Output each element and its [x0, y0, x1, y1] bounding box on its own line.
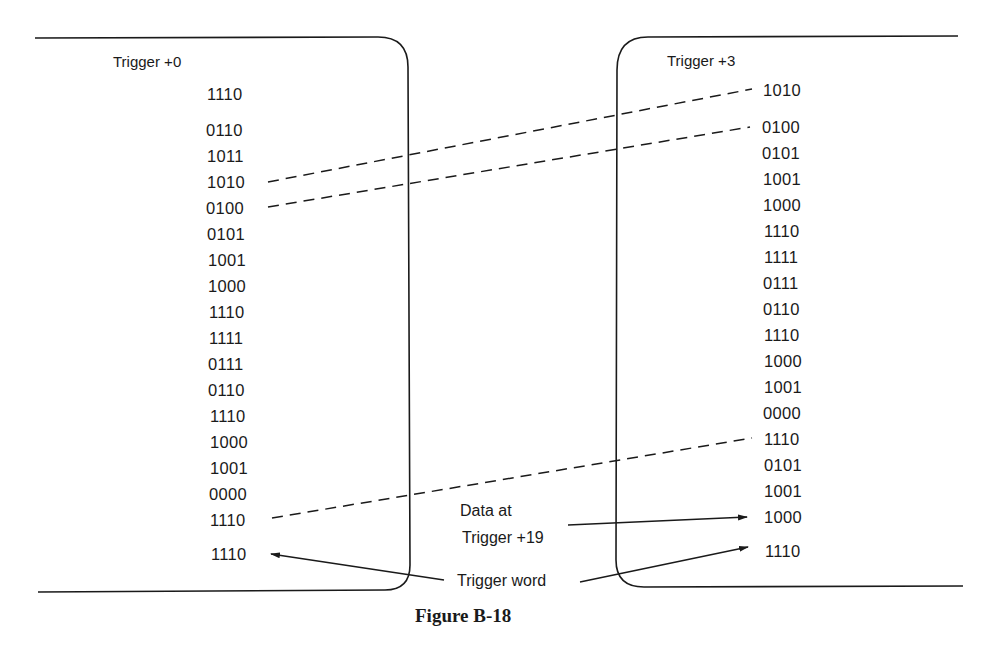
arrow-trigger-word-left: [271, 554, 444, 580]
left-word-3: 1011: [207, 148, 244, 165]
annotation-trigger-19: Trigger +19: [462, 530, 544, 546]
left-word-17: 1110: [210, 512, 245, 529]
right-word-13: 0000: [763, 405, 801, 422]
right-panel-header: Trigger +3: [667, 53, 735, 68]
left-word-14: 1000: [210, 434, 248, 451]
left-word-2: 0110: [206, 122, 243, 139]
right-word-4: 1001: [763, 171, 801, 188]
left-word-1: 1110: [207, 86, 242, 103]
right-word-6: 1110: [764, 223, 799, 240]
right-word-9: 0110: [763, 301, 800, 318]
figure-b-18-diagram: Trigger +0 1110 0110 1011 1010 0100 0101…: [0, 0, 989, 647]
annotation-data-at: Data at: [460, 503, 512, 519]
dashed-link-1010: [268, 89, 752, 182]
right-word-11: 1000: [764, 353, 802, 370]
right-word-10: 1110: [764, 327, 799, 344]
right-word-1: 1010: [763, 82, 801, 99]
dashed-link-0100: [268, 127, 750, 207]
figure-caption: Figure B-18: [415, 605, 511, 627]
right-word-7: 1111: [764, 249, 798, 266]
right-word-17: 1000: [764, 509, 802, 526]
right-word-12: 1001: [764, 379, 802, 396]
diagram-lines: [0, 0, 989, 647]
right-word-15: 0101: [764, 457, 802, 474]
right-word-5: 1000: [763, 197, 801, 214]
left-panel-header: Trigger +0: [113, 54, 181, 69]
left-word-5: 0100: [206, 200, 244, 217]
left-word-11: 0111: [208, 356, 243, 373]
arrow-data-at-trigger-19: [568, 517, 747, 525]
annotation-trigger-word: Trigger word: [457, 573, 546, 589]
right-word-3: 0101: [762, 145, 800, 162]
left-word-trigger: 1110: [211, 546, 246, 563]
left-word-16: 0000: [209, 486, 247, 503]
left-word-8: 1000: [208, 278, 246, 295]
right-word-2: 0100: [762, 119, 800, 136]
right-word-trigger: 1110: [765, 543, 800, 560]
left-word-15: 1001: [210, 460, 248, 477]
right-word-8: 0111: [763, 275, 798, 292]
left-word-10: 1111: [209, 330, 243, 347]
left-word-7: 1001: [208, 252, 246, 269]
right-word-14: 1110: [764, 431, 799, 448]
left-word-6: 0101: [207, 226, 245, 243]
left-word-13: 1110: [210, 408, 245, 425]
dashed-link-1110: [272, 438, 752, 518]
right-word-16: 1001: [764, 483, 802, 500]
arrow-trigger-word-right: [580, 547, 748, 582]
left-word-4: 1010: [207, 174, 245, 191]
left-word-9: 1110: [209, 304, 244, 321]
left-word-12: 0110: [208, 382, 245, 399]
